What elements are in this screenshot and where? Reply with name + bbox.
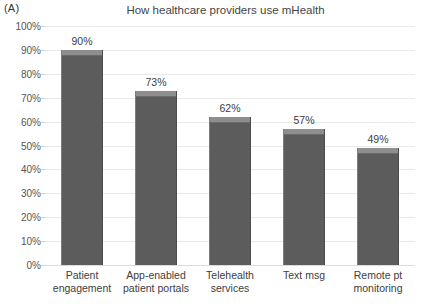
y-axis-tick-label: 70% [0, 92, 41, 103]
bar-group[interactable]: 49% [357, 148, 399, 265]
y-axis-tick-label: 90% [0, 44, 41, 55]
plot-area: 90%73%62%57%49% [45, 26, 415, 265]
y-axis-tick-label: 50% [0, 140, 41, 151]
bar[interactable] [357, 148, 399, 265]
bar-value-label: 90% [47, 35, 117, 47]
x-axis-category-label: Remote ptmonitoring [341, 269, 415, 295]
x-axis-category-line: monitoring [341, 282, 415, 295]
chart-figure: (A) How healthcare providers use mHealth… [0, 0, 421, 308]
bar-group[interactable]: 57% [283, 129, 325, 265]
x-axis-category-line: Telehealth [193, 269, 267, 282]
y-axis-tick-label: 80% [0, 68, 41, 79]
bar-top-cap [136, 91, 176, 97]
x-axis-category-line: Remote pt [341, 269, 415, 282]
x-axis-category-line: patient portals [119, 282, 193, 295]
bar[interactable] [61, 50, 103, 265]
bar-value-label: 73% [121, 76, 191, 88]
chart-title: How healthcare providers use mHealth [0, 4, 421, 16]
x-axis-category-line: services [193, 282, 267, 295]
bar[interactable] [135, 91, 177, 265]
bar-top-cap [62, 50, 102, 56]
y-axis-tick-label: 20% [0, 212, 41, 223]
y-axis-tick-label: 30% [0, 188, 41, 199]
bar-top-cap [284, 129, 324, 135]
bar-group[interactable]: 73% [135, 91, 177, 265]
bar-value-label: 49% [343, 133, 413, 145]
x-axis-category-label: Text msg [267, 269, 341, 282]
y-axis-tick-label: 10% [0, 236, 41, 247]
gridline [45, 26, 415, 27]
x-axis-category-line: App-enabled [119, 269, 193, 282]
bar-value-label: 62% [195, 102, 265, 114]
bar-value-label: 57% [269, 114, 339, 126]
bar-group[interactable]: 62% [209, 117, 251, 265]
x-axis-category-line: engagement [45, 282, 119, 295]
y-axis-tick-label: 0% [0, 260, 41, 271]
y-axis-tick-label: 40% [0, 164, 41, 175]
y-axis: 100%90%80%70%60%50%40%30%20%10%0% [0, 26, 41, 265]
bar[interactable] [209, 117, 251, 265]
x-axis-category-label: Patientengagement [45, 269, 119, 295]
x-axis-category-line: Text msg [267, 269, 341, 282]
y-axis-tick-label: 60% [0, 116, 41, 127]
x-axis-category-label: App-enabledpatient portals [119, 269, 193, 295]
gridline [45, 265, 415, 266]
bar-top-cap [210, 117, 250, 123]
bar[interactable] [283, 129, 325, 265]
bar-top-cap [358, 148, 398, 154]
x-axis-labels: PatientengagementApp-enabledpatient port… [45, 269, 415, 307]
x-axis-category-line: Patient [45, 269, 119, 282]
y-axis-tick-label: 100% [0, 21, 41, 32]
bar-group[interactable]: 90% [61, 50, 103, 265]
x-axis-category-label: Telehealthservices [193, 269, 267, 295]
